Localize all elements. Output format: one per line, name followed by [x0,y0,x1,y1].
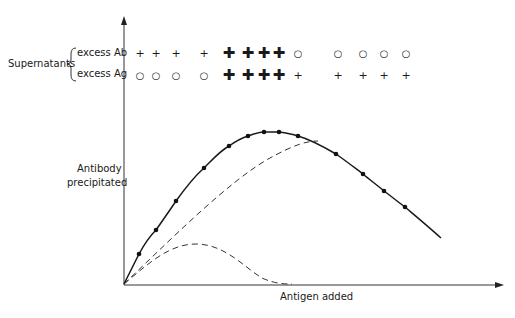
plus-icon: + [171,48,180,59]
plus-icon: + [401,70,410,81]
excess-ab-label: excess Ab [77,47,127,59]
bold-plus-icon: ✚ [223,70,236,81]
excess-ag-label: excess Ag [77,68,127,80]
circle-icon: ○ [200,70,209,81]
bold-plus-icon: ✚ [223,48,236,59]
circle-icon: ○ [294,48,303,59]
plus-icon: + [293,70,302,81]
precipitin-curve [124,132,441,284]
plus-icon: + [333,70,342,81]
plus-icon: + [358,70,367,81]
circle-icon: ○ [359,48,368,59]
y-axis-label-line2: precipitated [67,177,127,189]
bold-plus-icon: ✚ [242,70,255,81]
circle-icon: ○ [402,48,411,59]
plus-icon: + [199,48,208,59]
bold-plus-icon: ✚ [258,70,271,81]
large-component-curve [124,141,318,284]
circle-icon: ○ [380,48,389,59]
y-axis-arrow-icon [121,16,127,25]
circle-icon: ○ [334,48,343,59]
circle-icon: ○ [152,70,161,81]
small-component-curve [124,244,292,284]
bold-plus-icon: ✚ [273,48,286,59]
data-points [137,130,408,257]
x-axis-label: Antigen added [280,291,353,303]
bold-plus-icon: ✚ [258,48,271,59]
plus-icon: + [379,70,388,81]
bold-plus-icon: ✚ [273,70,286,81]
bold-plus-icon: ✚ [242,48,255,59]
circle-icon: ○ [172,70,181,81]
y-axis-label-line1: Antibody [77,163,117,175]
x-axis-arrow-icon [495,282,504,288]
plus-icon: + [135,48,144,59]
plus-icon: + [151,48,160,59]
supernatants-label: Supernatants [8,58,75,70]
circle-icon: ○ [136,70,145,81]
